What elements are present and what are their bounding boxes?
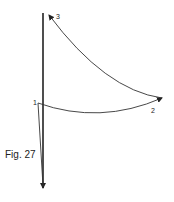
point-label-1: 1	[33, 99, 37, 106]
vector-diagram	[0, 0, 174, 202]
curve-1-to-2	[38, 98, 162, 113]
curve-2-to-3	[49, 15, 162, 98]
point-label-3: 3	[56, 13, 60, 20]
point-label-2: 2	[151, 107, 155, 114]
figure-caption: Fig. 27	[5, 150, 36, 160]
